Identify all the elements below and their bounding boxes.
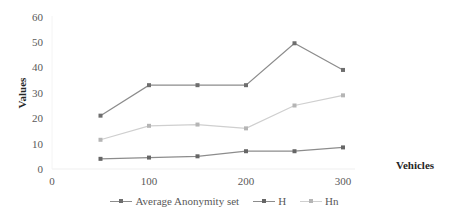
y-tick-label: 10 [32,138,44,150]
legend-item-average-anonymity-set: Average Anonymity set [110,195,239,207]
y-tick-label: 40 [32,61,44,73]
y-axis-title: Values [16,77,28,108]
legend-label: H [278,195,286,207]
data-point-marker [147,124,151,128]
data-point-marker [99,157,103,161]
series-hn [99,93,346,141]
y-tick-label: 60 [32,11,44,23]
series-line [101,43,344,115]
data-point-marker [293,104,297,108]
data-point-marker [147,156,151,160]
legend: Average Anonymity set H Hn [0,195,449,207]
data-point-marker [293,149,297,153]
data-point-marker [196,83,200,87]
series-line [101,95,344,139]
series-line [101,147,344,158]
data-point-marker [196,154,200,158]
data-point-marker [147,83,151,87]
x-tick-label: 300 [335,175,352,187]
legend-marker-icon [300,196,322,206]
data-point-marker [341,68,345,72]
data-point-marker [244,83,248,87]
series-average-anonymity-set [99,41,346,117]
data-point-marker [341,145,345,149]
y-tick-label: 30 [32,87,44,99]
data-point-marker [293,41,297,45]
x-tick-label: 200 [238,175,255,187]
legend-label: Average Anonymity set [135,195,239,207]
x-axis-title: Vehicles [396,159,435,171]
legend-item-h: H [253,195,286,207]
data-point-marker [341,93,345,97]
data-point-marker [244,149,248,153]
y-axis-ticks: 0102030405060 [32,11,44,175]
x-axis-ticks: 0100200300 [49,175,352,187]
y-tick-label: 50 [32,36,44,48]
data-point-marker [244,126,248,130]
data-point-marker [99,138,103,142]
y-tick-label: 0 [38,163,44,175]
x-tick-label: 0 [49,175,55,187]
y-tick-label: 20 [32,112,44,124]
legend-item-hn: Hn [300,195,338,207]
data-point-marker [99,114,103,118]
legend-label: Hn [325,195,338,207]
series-layer [99,41,346,161]
legend-marker-icon [110,196,132,206]
legend-marker-icon [253,196,275,206]
data-point-marker [196,123,200,127]
series-h [99,145,346,160]
x-tick-label: 100 [141,175,158,187]
line-chart: 0102030405060 0100200300 Values Vehicles [0,0,449,195]
